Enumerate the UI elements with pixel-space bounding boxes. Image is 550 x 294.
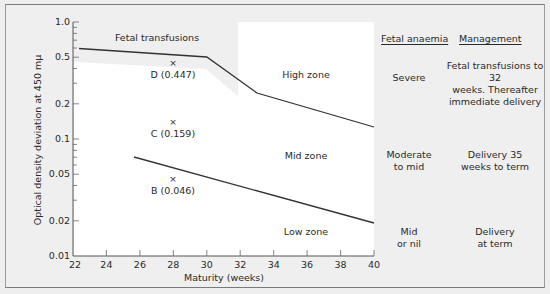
svg-text:0.2: 0.2	[55, 98, 70, 109]
svg-text:0.05: 0.05	[49, 168, 70, 179]
management-row2-line1: Delivery 35	[442, 149, 548, 161]
point-d-label: D (0.447)	[151, 69, 196, 80]
svg-text:0.02: 0.02	[49, 215, 70, 226]
mid-zone-label: Mid zone	[285, 150, 328, 161]
anaemia-row3-line1: Mid	[376, 226, 442, 238]
header-management: Management	[459, 33, 522, 44]
management-row3-line2: at term	[442, 238, 548, 250]
svg-text:1.0: 1.0	[55, 16, 70, 27]
svg-text:30: 30	[201, 259, 213, 270]
management-moderate: Delivery 35 weeks to term	[442, 149, 548, 173]
anaemia-mild: Mid or nil	[376, 226, 442, 250]
point-b-label: B (0.046)	[151, 185, 195, 196]
x-tick-labels: 22 24 26 28 30 32 34 36 38 40	[69, 259, 380, 270]
svg-text:0.1: 0.1	[55, 133, 70, 144]
point-c-label: C (0.159)	[151, 128, 195, 139]
svg-text:0.01: 0.01	[49, 250, 70, 261]
point-b-marker: ×	[169, 174, 177, 184]
svg-text:36: 36	[301, 259, 313, 270]
anaemia-severe: Severe	[376, 72, 442, 84]
management-mild: Delivery at term	[442, 226, 548, 250]
anaemia-row3-line2: or nil	[376, 238, 442, 250]
svg-text:40: 40	[368, 259, 380, 270]
point-c-marker: ×	[169, 117, 177, 127]
anaemia-row2-line2: to mid	[376, 161, 442, 173]
y-axis-label: Optical density deviation at 450 mμ	[32, 55, 43, 226]
point-d-marker: ×	[169, 58, 177, 68]
svg-text:24: 24	[100, 259, 112, 270]
fetal-transfusions-label: Fetal transfusions	[115, 32, 199, 43]
management-row3-line1: Delivery	[442, 226, 548, 238]
svg-text:38: 38	[335, 259, 347, 270]
svg-text:28: 28	[167, 259, 179, 270]
x-axis-label: Maturity (weeks)	[184, 272, 264, 283]
anaemia-moderate: Moderate to mid	[376, 149, 442, 173]
y-tick-labels: 1.0 0.5 0.2 0.1 0.05 0.02 0.01	[49, 16, 70, 261]
management-row1-line1: Fetal transfusions to 32	[442, 60, 548, 84]
svg-text:32: 32	[234, 259, 246, 270]
anaemia-row2-line1: Moderate	[376, 149, 442, 161]
low-zone-label: Low zone	[284, 226, 329, 237]
header-fetal-anaemia: Fetal anaemia	[381, 33, 448, 44]
svg-text:26: 26	[134, 259, 146, 270]
management-row1-line2: weeks. Thereafter	[442, 84, 548, 96]
svg-text:22: 22	[69, 259, 81, 270]
management-row2-line2: weeks to term	[442, 161, 548, 173]
management-row1-line3: immediate delivery	[442, 96, 548, 108]
svg-text:0.5: 0.5	[55, 51, 70, 62]
anaemia-row1-line1: Severe	[376, 72, 442, 84]
high-zone-label: High zone	[282, 69, 330, 80]
svg-text:34: 34	[268, 259, 280, 270]
management-severe: Fetal transfusions to 32 weeks. Thereaft…	[442, 60, 548, 108]
zone-panel	[238, 22, 374, 256]
plot-area-lower	[74, 62, 238, 256]
